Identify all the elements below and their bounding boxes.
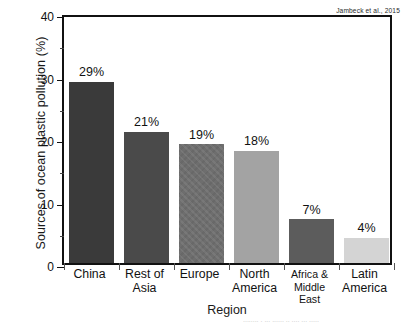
bar-value-label: 18% [244,135,269,149]
bars-layer: 29%21%19%18%7%4% [64,17,390,263]
y-tick-label: 10 [41,198,54,212]
y-tick-minor [60,236,64,237]
y-tick-major [57,80,64,81]
source-citation: Jambeck et al., 2015 [336,7,400,14]
bar-value-label: 29% [79,66,104,80]
x-category-label-line: China [62,268,117,282]
y-tick-minor [60,111,64,112]
bottom-crop-artifact: ........ . ... ...... .. .... ... ..... [243,316,409,323]
bar-rect[interactable] [234,151,279,264]
category-labels: ChinaRest ofAsiaEuropeNorthAmericaAfrica… [62,268,392,308]
y-tick-minor [60,48,64,49]
x-category-label: Europe [172,268,227,282]
bar-chart: Sources of ocean plastic pollution (%) 2… [0,0,409,323]
x-category-label-line: Europe [172,268,227,282]
y-tick-label: 0 [47,260,54,274]
x-category-label: Rest ofAsia [117,268,172,295]
y-tick-minor [60,173,64,174]
x-tick [394,263,395,270]
y-tick-major [57,17,64,18]
x-category-label: China [62,268,117,282]
x-category-label: LatinAmerica [337,268,392,295]
x-category-label: NorthAmerica [227,268,282,295]
x-category-label-line: Africa & [282,268,337,281]
bar-value-label: 4% [357,222,375,236]
y-tick-major [57,205,64,206]
bar-value-label: 7% [302,204,320,218]
bar-group[interactable]: 19% [179,129,224,264]
x-category-label-line: America [337,282,392,296]
bar-rect[interactable] [69,82,114,263]
x-category-label-line: Latin [337,268,392,282]
bar-rect[interactable] [124,132,169,263]
x-category-label-line: Rest of [117,268,172,282]
bar-group[interactable]: 18% [234,135,279,263]
bar-value-label: 19% [189,129,214,143]
bar-rect[interactable] [289,219,334,263]
bar-group[interactable]: 4% [344,222,389,263]
y-tick-major [57,142,64,143]
x-category-label-line: North [227,268,282,282]
bar-group[interactable]: 7% [289,204,334,264]
x-category-label-line: America [227,282,282,296]
x-category-label-line: Middle East [282,281,337,306]
plot-area: 29%21%19%18%7%4% 010203040 [62,15,392,265]
y-tick-label: 40 [41,10,54,24]
bar-group[interactable]: 21% [124,116,169,263]
bar-rect[interactable] [344,238,389,263]
bar-value-label: 21% [134,116,159,130]
y-tick-label: 30 [41,73,54,87]
y-tick-label: 20 [41,135,54,149]
x-axis-title: Region [62,303,392,317]
x-category-label-line: Asia [117,282,172,296]
bar-group[interactable]: 29% [69,66,114,263]
bar-rect[interactable] [179,144,224,263]
x-category-label: Africa &Middle East [282,268,337,306]
